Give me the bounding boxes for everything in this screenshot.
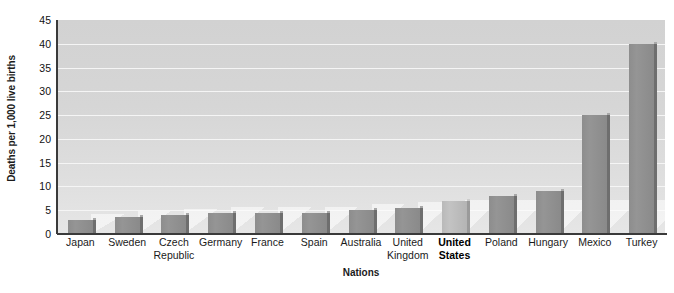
bar-face <box>208 213 233 234</box>
y-axis-title-text: Deaths per 1,000 live births <box>6 55 17 182</box>
bar <box>536 191 561 234</box>
y-axis-line <box>56 20 58 234</box>
x-tick-label: France <box>244 236 291 249</box>
x-tick-label: Poland <box>478 236 525 249</box>
y-tick-label: 45 <box>39 14 51 26</box>
x-tick-label: Japan <box>57 236 104 249</box>
bar <box>115 217 140 234</box>
bar-top-bevel <box>654 42 657 44</box>
bar-top-bevel <box>233 211 236 213</box>
x-tick-label: Sweden <box>104 236 151 249</box>
bar-face <box>349 210 374 234</box>
bar-face <box>442 201 467 234</box>
x-axis-title: Nations <box>57 267 665 278</box>
bar <box>442 201 467 234</box>
y-axis-title: Deaths per 1,000 live births <box>0 0 22 237</box>
y-axis-tick-labels: 051015202530354045 <box>22 20 55 234</box>
bar-side-shadow <box>280 213 283 234</box>
x-tick-label: Mexico <box>571 236 618 249</box>
x-tick-label: Spain <box>291 236 338 249</box>
bar-top-bevel <box>93 218 96 220</box>
x-tick-label: United Kingdom <box>384 236 431 261</box>
bar-side-shadow <box>140 217 143 234</box>
y-tick-label: 40 <box>39 38 51 50</box>
bar-top-bevel <box>374 208 377 210</box>
bar-face <box>161 215 186 234</box>
bar <box>68 220 93 234</box>
bar <box>208 213 233 234</box>
bar <box>629 44 654 234</box>
bar-side-shadow <box>233 213 236 234</box>
bar-top-bevel <box>420 206 423 208</box>
bar-face <box>629 44 654 234</box>
bar <box>395 208 420 234</box>
bar <box>582 115 607 234</box>
x-tick-label: Australia <box>338 236 385 249</box>
bar-top-bevel <box>327 211 330 213</box>
bar-face <box>68 220 93 234</box>
y-tick-label: 0 <box>45 228 51 240</box>
x-tick-label: United States <box>431 236 478 261</box>
bar-side-shadow <box>654 44 657 234</box>
y-tick-label: 25 <box>39 109 51 121</box>
bar-top-bevel <box>280 211 283 213</box>
x-tick-label: Germany <box>197 236 244 249</box>
x-tick-label: Turkey <box>618 236 665 249</box>
x-axis-line <box>57 233 667 235</box>
bar-top-bevel <box>607 113 610 115</box>
bars-layer <box>57 20 665 234</box>
bar-top-bevel <box>186 213 189 215</box>
x-axis-category-labels: JapanSwedenCzech RepublicGermanyFranceSp… <box>57 236 665 270</box>
bar-side-shadow <box>467 201 470 234</box>
x-tick-label: Hungary <box>525 236 572 249</box>
y-tick-label: 30 <box>39 85 51 97</box>
bar-face <box>582 115 607 234</box>
bar-side-shadow <box>186 215 189 234</box>
bar-face <box>302 213 327 234</box>
bar <box>302 213 327 234</box>
bar-side-shadow <box>93 220 96 234</box>
bar-top-bevel <box>140 215 143 217</box>
bar-side-shadow <box>420 208 423 234</box>
bar <box>161 215 186 234</box>
y-tick-label: 35 <box>39 62 51 74</box>
bar <box>489 196 514 234</box>
bar-face <box>115 217 140 234</box>
x-tick-label: Czech Republic <box>151 236 198 261</box>
bar-side-shadow <box>561 191 564 234</box>
y-tick-label: 20 <box>39 133 51 145</box>
bar-face <box>489 196 514 234</box>
bar-face <box>255 213 280 234</box>
y-tick-label: 15 <box>39 157 51 169</box>
bar-top-bevel <box>561 189 564 191</box>
bar-face <box>536 191 561 234</box>
plot-area <box>57 20 665 234</box>
bar-chart: Deaths per 1,000 live births 05101520253… <box>0 0 674 293</box>
bar <box>255 213 280 234</box>
bar-side-shadow <box>514 196 517 234</box>
y-tick-label: 10 <box>39 180 51 192</box>
bar-side-shadow <box>327 213 330 234</box>
bar-top-bevel <box>467 199 470 201</box>
bar-side-shadow <box>374 210 377 234</box>
bar-top-bevel <box>514 194 517 196</box>
y-tick-label: 5 <box>45 204 51 216</box>
bar-face <box>395 208 420 234</box>
bar-side-shadow <box>607 115 610 234</box>
bar <box>349 210 374 234</box>
